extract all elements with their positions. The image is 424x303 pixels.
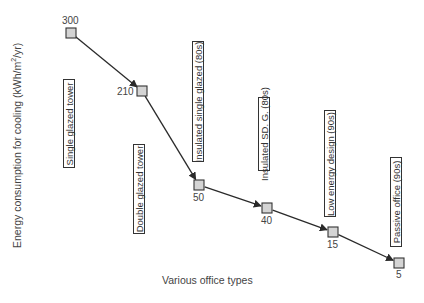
category-box-passive-office: Passive office (90s) — [390, 157, 402, 247]
y-axis-label: Energy consumption for cooling (kWh/m2/y… — [10, 43, 23, 248]
value-label-40: 40 — [261, 215, 272, 226]
chart-area: Energy consumption for cooling (kWh/m2/y… — [0, 0, 424, 303]
connector-arrow — [76, 37, 137, 87]
category-box-low-energy-design: Low energy design (90s) — [324, 110, 336, 217]
connector-arrow — [273, 210, 327, 230]
square-marker — [328, 227, 338, 237]
value-label-5: 5 — [396, 269, 402, 280]
connector-arrow — [145, 96, 196, 179]
category-box-double-glazed-tower: Double glazed tower — [133, 144, 145, 234]
x-axis-label: Various office types — [162, 274, 253, 286]
square-marker — [194, 180, 204, 190]
data-markers — [66, 28, 404, 268]
connector-arrow — [205, 187, 261, 206]
connector-arrow — [338, 235, 393, 261]
square-marker — [394, 258, 404, 268]
square-marker — [66, 28, 76, 38]
category-box-insulated-sdg: Insulated SD. G. (80s) — [258, 97, 270, 171]
connector-lines — [76, 37, 393, 260]
value-label-300: 300 — [62, 15, 79, 26]
square-marker — [137, 86, 147, 96]
category-box-insulated-single-glazed: Insulated single glazed (80s) — [192, 41, 204, 162]
value-label-50: 50 — [193, 192, 204, 203]
value-label-15: 15 — [327, 239, 338, 250]
category-box-single-glazed-tower: Single glazed tower — [63, 79, 75, 168]
value-label-210: 210 — [117, 86, 134, 97]
square-marker — [262, 203, 272, 213]
